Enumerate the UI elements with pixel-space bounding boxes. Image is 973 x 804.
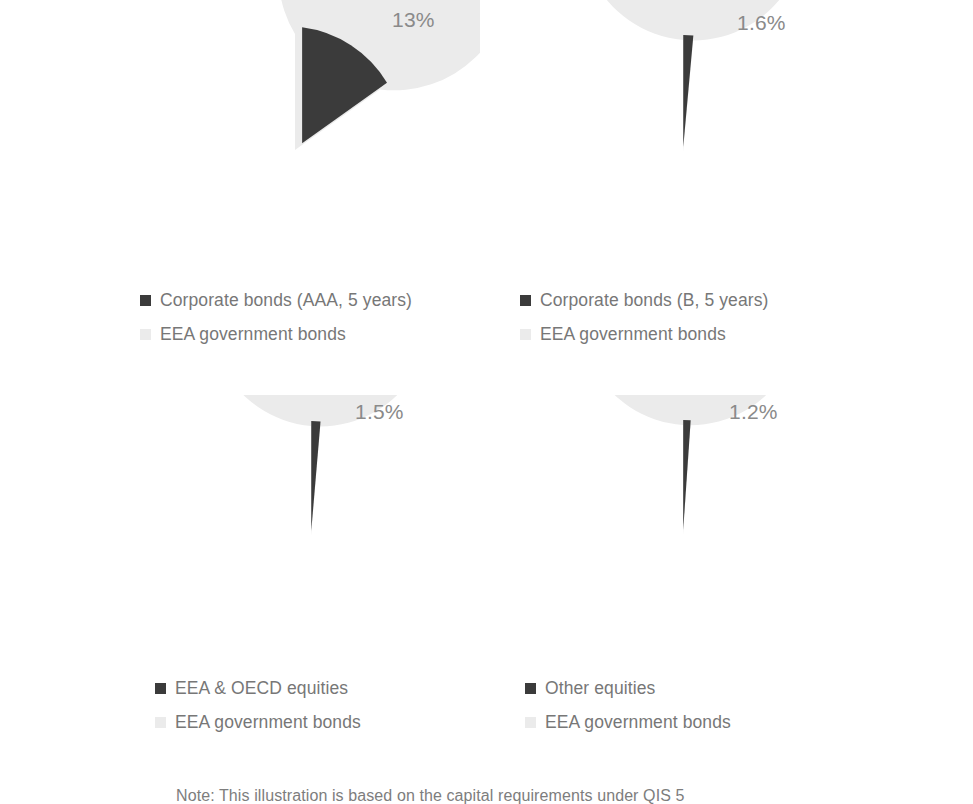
legend-item[interactable]: EEA government bonds	[525, 714, 865, 732]
legend-swatch-icon	[520, 295, 531, 306]
legend-label: EEA government bonds	[540, 326, 726, 344]
legend-item[interactable]: EEA government bonds	[520, 326, 860, 344]
pie-3-percentage-label: 1.5%	[355, 400, 404, 424]
pie-2-legend: Corporate bonds (B, 5 years) EEA governm…	[520, 292, 860, 359]
legend-label: Corporate bonds (B, 5 years)	[540, 292, 768, 310]
pie-chart-grid: 13% Corporate bonds (AAA, 5 years) EEA g…	[0, 0, 973, 804]
pie-chart-other-equities: 1.2% Other equities EEA government bonds	[525, 395, 865, 775]
pie-2-percentage-label: 1.6%	[737, 11, 786, 35]
pie-1-svg	[140, 0, 480, 300]
legend-label: EEA government bonds	[175, 714, 361, 732]
legend-item[interactable]: Other equities	[525, 680, 865, 698]
legend-swatch-icon	[525, 683, 536, 694]
pie-chart-corporate-bonds-b: 1.6% Corporate bonds (B, 5 years) EEA go…	[520, 0, 860, 385]
figure-note: Note: This illustration is based on the …	[176, 787, 685, 804]
pie-3-slice-highlight	[311, 421, 320, 531]
legend-item[interactable]: EEA & OECD equities	[155, 680, 495, 698]
pie-2-svg	[520, 0, 860, 300]
legend-label: EEA government bonds	[160, 326, 346, 344]
pie-1-percentage-label: 13%	[392, 8, 435, 32]
pie-4-slice-highlight	[683, 420, 691, 530]
pie-3-legend: EEA & OECD equities EEA government bonds	[155, 680, 495, 747]
pie-4-svg	[525, 395, 865, 685]
legend-item[interactable]: Corporate bonds (AAA, 5 years)	[140, 292, 480, 310]
legend-swatch-icon	[155, 717, 166, 728]
legend-swatch-icon	[140, 295, 151, 306]
pie-3-svg	[155, 395, 495, 685]
legend-item[interactable]: Corporate bonds (B, 5 years)	[520, 292, 860, 310]
legend-swatch-icon	[525, 717, 536, 728]
legend-swatch-icon	[140, 329, 151, 340]
pie-chart-eea-oecd-equities: 1.5% EEA & OECD equities EEA government …	[155, 395, 495, 775]
legend-swatch-icon	[520, 329, 531, 340]
legend-item[interactable]: EEA government bonds	[140, 326, 480, 344]
legend-label: EEA & OECD equities	[175, 680, 348, 698]
pie-4-legend: Other equities EEA government bonds	[525, 680, 865, 747]
pie-chart-corporate-bonds-aaa: 13% Corporate bonds (AAA, 5 years) EEA g…	[140, 0, 480, 385]
pie-1-legend: Corporate bonds (AAA, 5 years) EEA gover…	[140, 292, 480, 359]
legend-label: Other equities	[545, 680, 655, 698]
legend-swatch-icon	[155, 683, 166, 694]
pie-4-percentage-label: 1.2%	[729, 400, 778, 424]
legend-label: EEA government bonds	[545, 714, 731, 732]
legend-item[interactable]: EEA government bonds	[155, 714, 495, 732]
legend-label: Corporate bonds (AAA, 5 years)	[160, 292, 412, 310]
pie-2-slice-highlight	[683, 35, 693, 147]
